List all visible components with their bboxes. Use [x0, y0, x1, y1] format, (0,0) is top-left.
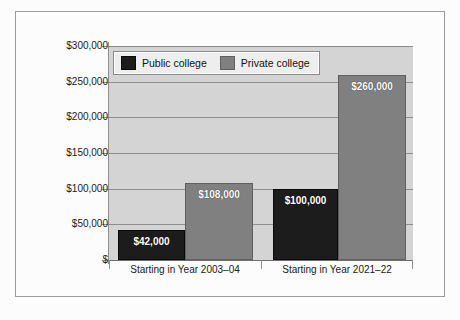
y-tick-label-200000: $200,000 — [22, 112, 108, 122]
bar-private-2003-04[interactable]: $108,000 — [185, 183, 253, 260]
category-label-2003-04: Starting in Year 2003–04 — [109, 264, 261, 275]
y-tick-label-0: $ — [22, 255, 108, 265]
legend-entry-public-college[interactable]: Public college — [121, 56, 207, 70]
legend-label-public-college: Public college — [142, 57, 207, 69]
bar-value-label-public-2021-22: $100,000 — [274, 195, 337, 206]
bar-value-label-public-2003-04: $42,000 — [119, 236, 184, 247]
bar-public-2021-22[interactable]: $100,000 — [273, 189, 338, 260]
y-axis-line — [108, 42, 109, 264]
legend-swatch-public-icon — [121, 56, 136, 70]
category-label-2021-22: Starting in Year 2021–22 — [261, 264, 413, 275]
bar-chart: $42,000 $108,000 $100,000 $260,000 $300,… — [16, 12, 446, 298]
gridline-300000 — [109, 46, 413, 47]
bar-private-2021-22[interactable]: $260,000 — [338, 75, 406, 260]
legend-entry-private-college[interactable]: Private college — [220, 56, 310, 70]
y-tick-label-100000: $100,000 — [22, 184, 108, 194]
plot-area: $42,000 $108,000 $100,000 $260,000 — [109, 46, 413, 260]
bar-public-2003-04[interactable]: $42,000 — [118, 230, 185, 260]
legend-label-private-college: Private college — [241, 57, 310, 69]
y-axis-ticks: $300,000 $250,000 $200,000 $150,000 $100… — [16, 12, 108, 298]
chart-legend: Public college Private college — [113, 51, 320, 75]
y-tick-label-250000: $250,000 — [22, 77, 108, 87]
chart-figure-frame: $42,000 $108,000 $100,000 $260,000 $300,… — [15, 11, 445, 297]
y-tick-label-300000: $300,000 — [22, 41, 108, 51]
bar-value-label-private-2021-22: $260,000 — [339, 81, 405, 92]
bar-value-label-private-2003-04: $108,000 — [186, 189, 252, 200]
y-tick-label-50000: $50,000 — [22, 219, 108, 229]
y-tick-label-150000: $150,000 — [22, 148, 108, 158]
legend-swatch-private-icon — [220, 56, 235, 70]
